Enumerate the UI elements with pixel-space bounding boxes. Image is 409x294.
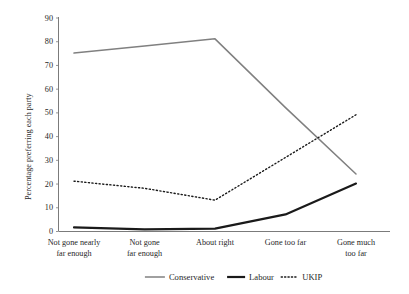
legend-label-conservative: Conservative	[169, 272, 215, 282]
y-tick-label: 30	[45, 156, 53, 165]
data-series-group	[74, 39, 356, 229]
x-category-label: far enough	[127, 249, 162, 258]
x-axis-category-labels: Not gone nearlyfar enoughNot gonefar eno…	[48, 238, 375, 258]
y-axis-title: Percentage preferring each party	[24, 92, 33, 200]
series-line-labour	[74, 184, 356, 230]
line-chart-svg: Percentage preferring each party 0102030…	[0, 0, 409, 294]
chart-legend: ConservativeLabourUKIP	[145, 272, 323, 282]
x-category-label: Not gone	[129, 238, 160, 247]
y-tick-label: 10	[45, 203, 53, 212]
x-category-label: Gone too far	[265, 238, 307, 247]
y-tick-label: 70	[45, 61, 53, 70]
x-category-label: Gone much	[337, 238, 375, 247]
y-tick-label: 0	[49, 227, 53, 236]
chart-figure: Percentage preferring each party 0102030…	[0, 0, 409, 294]
legend-label-ukip: UKIP	[302, 272, 322, 282]
series-line-ukip	[74, 115, 356, 200]
y-tick-label: 50	[45, 108, 53, 117]
x-category-label: About right	[196, 238, 235, 247]
y-tick-label: 90	[45, 14, 53, 23]
series-line-conservative	[74, 39, 356, 174]
x-category-label: Not gone nearly	[48, 238, 102, 247]
y-tick-label: 40	[45, 132, 53, 141]
x-category-label: too far	[345, 249, 367, 258]
x-category-label: far enough	[56, 249, 91, 258]
y-tick-label: 20	[45, 180, 53, 189]
y-tick-label: 60	[45, 85, 53, 94]
legend-label-labour: Labour	[249, 272, 274, 282]
y-tick-label: 80	[45, 37, 53, 46]
y-axis-title-group: Percentage preferring each party	[24, 92, 33, 200]
y-axis-tick-labels: 0102030405060708090	[45, 14, 53, 237]
